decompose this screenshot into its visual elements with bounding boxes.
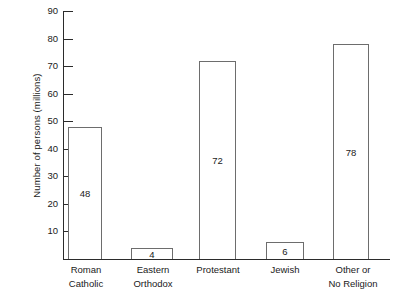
x-category-label: Protestant [184, 263, 252, 277]
bar-chart: Number of persons (millions) 10203040506… [0, 0, 398, 297]
y-tick-label: 30 [36, 171, 58, 181]
bar: 72 [199, 61, 236, 259]
x-category-label: EasternOrthodox [118, 263, 188, 290]
bar-value-label: 48 [69, 189, 101, 199]
x-category-label: Other orNo Religion [316, 263, 390, 290]
y-tick-label: 80 [36, 34, 58, 44]
x-category-label-line: Protestant [184, 263, 252, 277]
bar: 6 [266, 242, 304, 259]
bar-value-label: 72 [200, 156, 235, 166]
bar-value-label: 78 [334, 148, 368, 158]
x-category-label-line: No Religion [316, 277, 390, 291]
y-tick-label: 70 [36, 61, 58, 71]
y-tick-label: 10 [36, 226, 58, 236]
y-tick-label: 40 [36, 144, 58, 154]
y-tick-label: 50 [36, 116, 58, 126]
y-tick-label: 90 [36, 6, 58, 16]
x-category-label-line: Jewish [252, 263, 318, 277]
x-category-label-line: Eastern [118, 263, 188, 277]
y-axis-line [63, 11, 64, 260]
y-tick-mark [64, 11, 73, 12]
y-tick-mark [64, 94, 73, 95]
bar: 48 [68, 127, 102, 259]
y-tick-mark [64, 39, 73, 40]
bar: 4 [131, 248, 173, 259]
y-tick-mark [64, 66, 73, 67]
x-category-label-line: Other or [316, 263, 390, 277]
bar-value-label: 6 [267, 247, 303, 257]
x-axis-line [63, 259, 390, 260]
x-category-label-line: Catholic [55, 277, 117, 291]
x-category-label: RomanCatholic [55, 263, 117, 290]
bar-value-label: 4 [132, 250, 172, 260]
y-tick-label: 60 [36, 89, 58, 99]
y-tick-mark [64, 121, 73, 122]
x-category-label-line: Orthodox [118, 277, 188, 291]
x-category-label-line: Roman [55, 263, 117, 277]
x-category-label: Jewish [252, 263, 318, 277]
bar: 78 [333, 44, 369, 259]
y-tick-label: 20 [36, 199, 58, 209]
